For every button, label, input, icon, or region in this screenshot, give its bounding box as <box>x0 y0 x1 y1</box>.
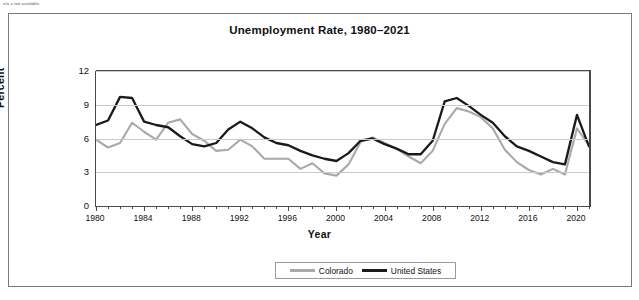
x-axis-tick <box>288 206 289 211</box>
gridline <box>96 105 589 106</box>
x-axis-tick <box>204 206 205 209</box>
x-axis-tick <box>373 206 374 209</box>
legend-label-united-states: United States <box>391 266 441 276</box>
legend-label-colorado: Colorado <box>319 266 353 276</box>
x-axis-tick <box>228 206 229 209</box>
x-axis-tick <box>469 206 470 209</box>
x-axis-title: Year <box>0 228 639 240</box>
x-axis-tick <box>445 206 446 209</box>
x-axis-tick <box>108 206 109 209</box>
x-axis-tick <box>264 206 265 209</box>
x-axis-tick <box>397 206 398 209</box>
x-axis-tick <box>553 206 554 209</box>
x-axis-tick-label: 1984 <box>121 213 165 223</box>
y-axis-tick-label: 0 <box>59 200 89 211</box>
x-axis-tick <box>385 206 386 211</box>
x-axis-tick <box>349 206 350 209</box>
x-axis-tick <box>505 206 506 209</box>
x-axis-tick <box>144 206 145 211</box>
x-axis-tick <box>577 206 578 211</box>
x-axis-tick <box>361 206 362 209</box>
x-axis-tick-label: 2012 <box>458 213 502 223</box>
x-axis-tick <box>565 206 566 209</box>
gridline <box>96 139 589 140</box>
x-axis-tick <box>541 206 542 209</box>
x-axis-tick <box>457 206 458 209</box>
series-line-colorado <box>96 108 589 176</box>
x-axis-tick <box>529 206 530 211</box>
x-axis-tick <box>180 206 181 209</box>
y-axis-tick-label: 9 <box>59 99 89 110</box>
x-axis-tick <box>156 206 157 209</box>
x-axis-tick-label: 2020 <box>554 213 598 223</box>
legend-item-colorado[interactable]: Colorado <box>290 266 353 276</box>
gridline <box>96 172 589 173</box>
x-axis-tick <box>517 206 518 209</box>
x-axis-tick <box>312 206 313 209</box>
x-axis-tick <box>324 206 325 209</box>
x-axis-tick <box>433 206 434 211</box>
legend-swatch-colorado <box>290 269 315 272</box>
chart-legend: Colorado United States <box>275 262 456 279</box>
legend-swatch-united-states <box>362 269 387 272</box>
x-axis-tick <box>216 206 217 209</box>
x-axis-tick <box>168 206 169 209</box>
x-axis-tick <box>409 206 410 209</box>
y-axis-title: Percent <box>0 67 6 108</box>
y-axis-tick-label: 3 <box>59 166 89 177</box>
plot-area <box>95 71 589 207</box>
x-axis-tick <box>120 206 121 209</box>
y-axis-tick-label: 12 <box>59 65 89 76</box>
x-axis-tick-label: 1988 <box>169 213 213 223</box>
x-axis-tick-label: 2016 <box>506 213 550 223</box>
x-axis-tick <box>336 206 337 211</box>
x-axis-tick <box>276 206 277 209</box>
availability-note: n/a = not available. <box>3 1 40 7</box>
x-axis-tick <box>132 206 133 209</box>
x-axis-tick <box>96 206 97 211</box>
x-axis-tick <box>300 206 301 209</box>
x-axis-tick-label: 1980 <box>73 213 117 223</box>
y-axis-tick-label: 6 <box>59 133 89 144</box>
x-axis-tick <box>240 206 241 211</box>
x-axis-tick-label: 2000 <box>313 213 357 223</box>
x-axis-tick <box>421 206 422 209</box>
x-axis-tick <box>481 206 482 211</box>
chart-title: Unemployment Rate, 1980–2021 <box>0 24 639 36</box>
x-axis-tick <box>493 206 494 209</box>
legend-item-united-states[interactable]: United States <box>362 266 441 276</box>
series-line-united-states <box>96 97 589 165</box>
x-axis-tick-label: 2008 <box>410 213 454 223</box>
x-axis-tick <box>192 206 193 211</box>
x-axis-tick <box>589 206 590 209</box>
plot-right-border <box>589 70 591 207</box>
gridline <box>96 71 589 72</box>
x-axis-tick-label: 2004 <box>362 213 406 223</box>
x-axis-tick <box>252 206 253 209</box>
x-axis-tick-label: 1996 <box>265 213 309 223</box>
x-axis-tick-label: 1992 <box>217 213 261 223</box>
